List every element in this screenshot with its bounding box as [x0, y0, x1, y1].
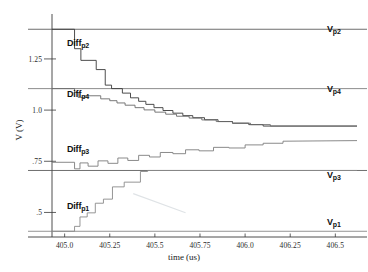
- level-label-vp4: Vp4: [327, 84, 341, 94]
- y-tick-label: 1.0: [20, 106, 42, 115]
- x-tick-label: 406.0: [236, 241, 253, 250]
- faint-diagonal-artifact: [133, 194, 185, 213]
- level-label-vp1: Vp1: [327, 217, 341, 227]
- level-label-subscript: p4: [333, 88, 341, 95]
- series-line-diffp1: [52, 170, 357, 231]
- series-label-diffp4: Diffp4: [67, 89, 89, 99]
- y-tick-label: 1.25: [20, 54, 42, 63]
- series-label-subscript: p1: [81, 205, 89, 212]
- y-tick-label: .5: [20, 208, 42, 217]
- series-line-diffp3: [52, 141, 357, 169]
- level-label-main: V: [327, 170, 333, 180]
- series-label-main: Diff: [67, 38, 81, 48]
- series-label-diffp1: Diffp1: [67, 201, 89, 211]
- annotation-lines: [133, 194, 185, 213]
- series-label-diffp3: Diffp3: [67, 144, 89, 154]
- y-tick-label: .75: [20, 157, 42, 166]
- level-label-vp2: Vp2: [327, 24, 341, 34]
- series-label-main: Diff: [67, 89, 81, 99]
- series-label-main: Diff: [67, 144, 81, 154]
- level-label-subscript: p2: [333, 28, 341, 35]
- series-line-diffp2: [52, 29, 357, 126]
- data-series-lines: [52, 29, 357, 231]
- level-label-subscript: p3: [333, 174, 341, 181]
- series-label-subscript: p2: [81, 42, 89, 49]
- level-label-main: V: [327, 217, 333, 227]
- chart-plot-area: [0, 0, 368, 272]
- x-tick-label: 405.25: [99, 241, 120, 250]
- series-label-diffp2: Diffp2: [67, 38, 89, 48]
- series-label-subscript: p3: [81, 148, 89, 155]
- series-label-subscript: p4: [81, 93, 89, 100]
- x-tick-label: 406.5: [327, 241, 344, 250]
- chart-container: time (us) V (V) 405.0405.25405.5405.7540…: [0, 0, 368, 272]
- x-tick-label: 406.25: [280, 241, 301, 250]
- series-label-main: Diff: [67, 201, 81, 211]
- series-line-diffp4: [52, 89, 357, 126]
- level-label-subscript: p1: [333, 221, 341, 228]
- x-tick-label: 405.0: [56, 241, 73, 250]
- x-axis-title: time (us): [168, 252, 200, 262]
- x-tick-label: 405.75: [189, 241, 210, 250]
- x-tick-label: 405.5: [146, 241, 163, 250]
- y-axis-title: V (V): [14, 119, 24, 140]
- level-label-main: V: [327, 24, 333, 34]
- level-label-main: V: [327, 84, 333, 94]
- level-label-vp3: Vp3: [327, 170, 341, 180]
